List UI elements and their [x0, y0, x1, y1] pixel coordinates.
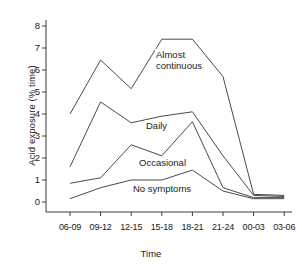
- series-label: Occasional: [138, 157, 187, 168]
- x-axis-title: Time: [0, 248, 302, 259]
- acid-exposure-line-chart: Acid exposure (% time) 012345678 06-0909…: [0, 0, 302, 269]
- series-label: No symptoms: [132, 183, 192, 194]
- x-axis-ticks: [70, 212, 284, 216]
- series-label: Almost: [155, 49, 186, 60]
- x-axis-tick-label: 03-06: [264, 222, 302, 232]
- series-label: continuous: [155, 60, 203, 71]
- y-axis-ticks: [42, 26, 46, 202]
- series-label: Daily: [145, 120, 168, 131]
